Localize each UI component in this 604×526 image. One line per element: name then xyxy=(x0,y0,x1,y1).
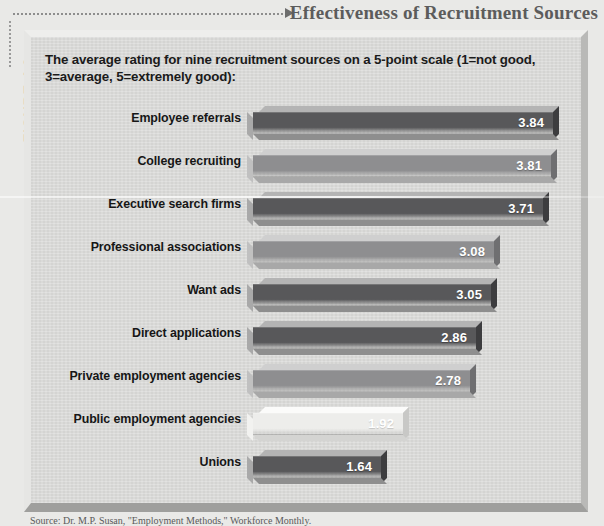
bar-bottom-face xyxy=(253,392,476,398)
bar-category-label: Executive search firms xyxy=(31,197,241,211)
bar-front-face xyxy=(253,112,553,134)
bar-bottom-face xyxy=(253,177,557,183)
bar[interactable]: 3.08 xyxy=(253,235,494,263)
bar-category-label: Direct applications xyxy=(31,326,241,340)
bar-category-label: Unions xyxy=(31,455,241,469)
bar-bottom-face xyxy=(253,349,482,355)
bar[interactable]: 1.64 xyxy=(253,450,381,478)
figure-header: Effectiveness of Recruitment Sources xyxy=(0,0,604,30)
bar-row: Unions1.64 xyxy=(31,443,581,486)
bar-bottom-face xyxy=(253,220,549,226)
bar-category-label: Employee referrals xyxy=(31,111,241,125)
bar-value-label: 2.86 xyxy=(441,327,467,349)
bar-value-label: 3.81 xyxy=(516,155,542,177)
bar-row: Want ads3.05 xyxy=(31,271,581,314)
bar-category-label: College recruiting xyxy=(31,154,241,168)
figure-title: Effectiveness of Recruitment Sources xyxy=(290,2,598,24)
bar-value-label: 1.64 xyxy=(346,456,372,478)
bar-row: Executive search firms3.71 xyxy=(31,185,581,228)
figure-label-dots xyxy=(9,20,11,68)
bar-category-label: Private employment agencies xyxy=(31,369,241,383)
bar-value-label: 1.92 xyxy=(368,413,394,435)
bar-row: Private employment agencies2.78 xyxy=(31,357,581,400)
bar-front-face xyxy=(253,155,551,177)
bar-category-label: Public employment agencies xyxy=(31,412,241,426)
bar-front-face xyxy=(253,198,543,220)
bar-front-face xyxy=(253,241,494,263)
chart-caption: The average rating for nine recruitment … xyxy=(45,51,561,85)
bar-value-label: 3.08 xyxy=(459,241,485,263)
bar-row: Employee referrals3.84 xyxy=(31,99,581,142)
bar[interactable]: 3.81 xyxy=(253,149,551,177)
bar[interactable]: 2.78 xyxy=(253,364,470,392)
bar-value-label: 3.05 xyxy=(456,284,482,306)
bar-row: College recruiting3.81 xyxy=(31,142,581,185)
bar-row: Public employment agencies1.92 xyxy=(31,400,581,443)
bar-bottom-face xyxy=(253,306,497,312)
bar-bottom-face xyxy=(253,134,559,140)
bar[interactable]: 2.86 xyxy=(253,321,476,349)
bar-chart: Employee referrals3.84College recruiting… xyxy=(31,99,581,489)
dotted-leader-line xyxy=(12,13,284,15)
bar[interactable]: 3.05 xyxy=(253,278,491,306)
bar-bottom-face xyxy=(253,263,500,269)
chart-panel: The average rating for nine recruitment … xyxy=(24,30,588,512)
bar[interactable]: 1.92 xyxy=(253,407,403,435)
bar-bottom-face xyxy=(253,478,387,484)
bar-bottom-face xyxy=(253,435,409,441)
bar-row: Direct applications2.86 xyxy=(31,314,581,357)
bar-category-label: Want ads xyxy=(31,283,241,297)
bar[interactable]: 3.84 xyxy=(253,106,553,134)
bar-value-label: 2.78 xyxy=(435,370,461,392)
source-note: Source: Dr. M.P. Susan, "Employment Meth… xyxy=(30,515,311,526)
bar-value-label: 3.71 xyxy=(508,198,534,220)
bar[interactable]: 3.71 xyxy=(253,192,543,220)
bar-category-label: Professional associations xyxy=(31,240,241,254)
bar-value-label: 3.84 xyxy=(518,112,544,134)
bar-row: Professional associations3.08 xyxy=(31,228,581,271)
